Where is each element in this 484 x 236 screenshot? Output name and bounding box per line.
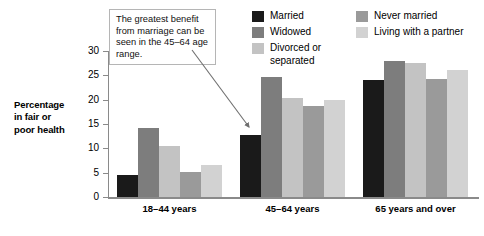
legend-label: Divorced or separated — [270, 42, 321, 67]
y-axis-title: Percentage in fair or poor health — [14, 99, 90, 136]
legend-label: Never married — [374, 10, 437, 23]
bar — [261, 77, 282, 197]
bar — [201, 165, 222, 197]
annotation-callout-text: The greatest benefit from marriage can b… — [116, 14, 210, 60]
y-axis-title-line-3: poor health — [14, 124, 90, 136]
bar-group — [363, 51, 468, 197]
y-axis-tick-label: 10 — [88, 141, 99, 154]
bar — [384, 61, 405, 197]
legend-label: Married — [270, 10, 304, 23]
y-axis-tick-mark — [103, 124, 108, 125]
x-axis-line — [108, 197, 479, 199]
legend-swatch-icon — [252, 27, 264, 38]
legend-swatch-icon — [356, 27, 368, 38]
bar-chart: Percentage in fair or poor health 051015… — [0, 0, 484, 236]
legend-item: Divorced or separated — [252, 42, 356, 67]
bar-group — [117, 51, 222, 197]
y-axis-tick-label: 25 — [88, 68, 99, 81]
plot-area — [109, 51, 479, 197]
bar — [282, 98, 303, 197]
y-axis-tick-label: 30 — [88, 44, 99, 57]
x-axis-label: 45–64 years — [233, 203, 353, 214]
x-axis-label: 18–44 years — [110, 203, 230, 214]
y-axis-tick-label: 20 — [88, 93, 99, 106]
legend-swatch-icon — [252, 11, 264, 22]
bar — [240, 135, 261, 197]
y-axis-title-line-1: Percentage — [14, 99, 90, 111]
bar — [303, 106, 324, 197]
y-axis-tick-mark — [103, 197, 108, 198]
legend-column-1: MarriedWidowedDivorced or separated — [252, 10, 356, 71]
bar — [180, 172, 201, 197]
legend-column-2: Never marriedLiving with a partner — [356, 10, 484, 42]
y-axis-tick-label: 0 — [93, 190, 99, 203]
x-axis-label: 65 years and over — [356, 203, 476, 214]
y-axis-tick-label: 5 — [93, 166, 99, 179]
bar — [405, 63, 426, 197]
y-axis-tick-mark — [103, 148, 108, 149]
bar — [159, 146, 180, 197]
bar — [447, 70, 468, 197]
bar — [363, 80, 384, 197]
y-axis-tick-mark — [103, 75, 108, 76]
bar — [138, 128, 159, 197]
bar-group — [240, 51, 345, 197]
annotation-callout: The greatest benefit from marriage can b… — [109, 9, 216, 65]
bar — [426, 79, 447, 197]
legend-swatch-icon — [252, 43, 264, 54]
legend-label: Widowed — [270, 26, 311, 39]
legend-label: Living with a partner — [374, 26, 464, 39]
y-axis-tick-mark — [103, 51, 108, 52]
chart-legend: MarriedWidowedDivorced or separated Neve… — [252, 10, 484, 66]
y-axis-tick-mark — [103, 100, 108, 101]
y-axis-tick-mark — [103, 173, 108, 174]
legend-item: Married — [252, 10, 356, 23]
bar — [117, 175, 138, 197]
legend-swatch-icon — [356, 11, 368, 22]
legend-item: Living with a partner — [356, 26, 484, 39]
bar — [324, 100, 345, 197]
y-axis-tick-label: 15 — [88, 117, 99, 130]
legend-item: Never married — [356, 10, 484, 23]
y-axis-title-line-2: in fair or — [14, 111, 90, 123]
legend-item: Widowed — [252, 26, 356, 39]
